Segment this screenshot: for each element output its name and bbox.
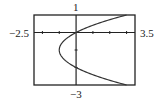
- plot-frame: [34, 15, 135, 85]
- graph-window: [0, 0, 163, 103]
- axes: [34, 15, 135, 85]
- parabola-curve: [59, 15, 126, 85]
